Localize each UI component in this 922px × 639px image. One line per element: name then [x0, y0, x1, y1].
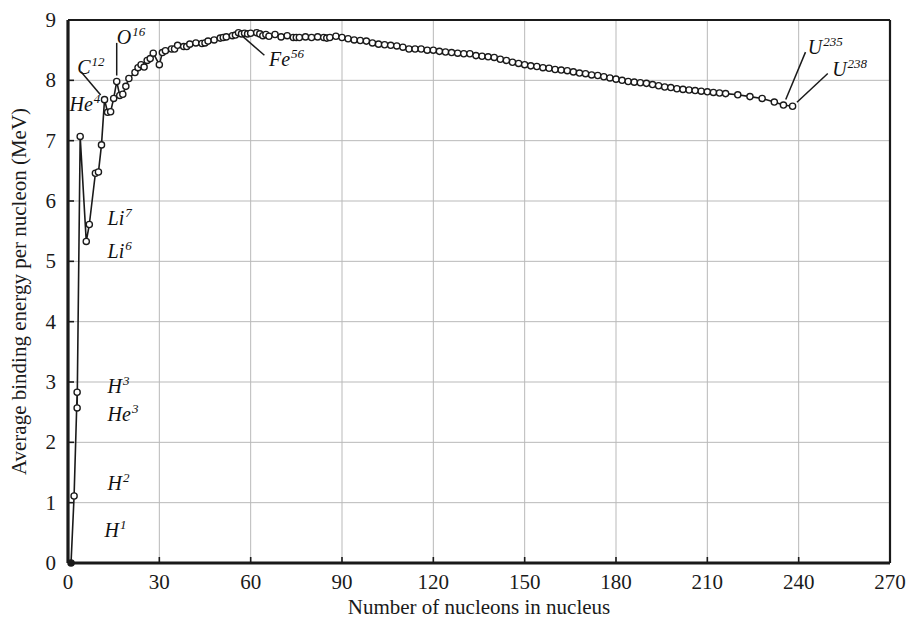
y-tick-label: 2 [46, 430, 57, 454]
data-point-marker [759, 95, 765, 101]
data-point-marker [95, 169, 101, 175]
data-point-marker [662, 84, 668, 90]
annotation-mass-number: 12 [91, 54, 105, 69]
data-point-marker [656, 83, 662, 89]
y-tick-label: 4 [46, 310, 57, 334]
data-point-marker [589, 72, 595, 78]
x-tick-label: 120 [418, 570, 450, 594]
x-tick-label: 30 [149, 570, 170, 594]
data-point-marker [345, 36, 351, 42]
data-point-marker [613, 76, 619, 82]
data-point-marker [333, 33, 339, 39]
data-point-marker [479, 53, 485, 59]
annotation-mass-number: 56 [291, 46, 305, 61]
data-point-marker [418, 46, 424, 52]
data-point-marker [369, 40, 375, 46]
annotation-element-symbol: U [832, 58, 848, 80]
annotation-element-symbol: Li [107, 240, 125, 262]
data-point-marker [278, 34, 284, 40]
data-point-marker [74, 405, 80, 411]
data-point-marker [643, 80, 649, 86]
annotation-element-symbol: H [104, 519, 121, 541]
data-point-marker [582, 71, 588, 77]
x-tick-label: 90 [332, 570, 353, 594]
data-point-marker [467, 51, 473, 57]
data-point-marker [86, 221, 92, 227]
y-tick-label: 5 [46, 249, 57, 273]
data-point-marker [327, 34, 333, 40]
x-axis-title: Number of nucleons in nucleus [348, 595, 610, 619]
data-point-marker [436, 48, 442, 54]
annotation-element-symbol: O [117, 26, 131, 48]
data-point-marker [382, 42, 388, 48]
data-point-marker [515, 60, 521, 66]
annotation-element-symbol: U [808, 36, 824, 58]
data-point-marker [111, 95, 117, 101]
data-point-marker [315, 34, 321, 40]
binding-energy-curve-figure: 0306090120150180210240270 0123456789 H1H… [0, 0, 922, 639]
data-point-marker [771, 99, 777, 105]
data-point-marker [485, 54, 491, 60]
data-point-marker [503, 57, 509, 63]
annotation-mass-number: 235 [823, 34, 843, 49]
data-point-marker [83, 238, 89, 244]
x-tick-label: 240 [783, 570, 815, 594]
annotation-mass-number: 2 [123, 470, 130, 485]
data-point-marker [187, 41, 193, 47]
data-point-marker [491, 54, 497, 60]
annotation-mass-number: 1 [120, 517, 127, 532]
x-tick-label: 210 [692, 570, 724, 594]
data-point-marker [308, 34, 314, 40]
x-tick-label: 180 [600, 570, 632, 594]
data-point-marker [162, 48, 168, 54]
y-tick-label: 8 [46, 68, 57, 92]
data-point-marker [394, 43, 400, 49]
data-point-marker [735, 92, 741, 98]
data-point-marker [552, 66, 558, 72]
annotation-element-symbol: H [107, 375, 124, 397]
annotation-element-symbol: He [69, 93, 93, 115]
chart-canvas: 0306090120150180210240270 0123456789 H1H… [0, 0, 922, 639]
data-point-marker [540, 65, 546, 71]
data-point-marker [710, 89, 716, 95]
annotation-mass-number: 6 [125, 238, 132, 253]
data-point-marker [680, 86, 686, 92]
data-point-marker [686, 87, 692, 93]
annotation-mass-number: 4 [94, 91, 101, 106]
y-tick-label: 6 [46, 189, 57, 213]
data-point-marker [789, 103, 795, 109]
data-point-marker [211, 37, 217, 43]
data-point-marker [619, 77, 625, 83]
data-point-marker [71, 493, 77, 499]
data-point-marker [461, 51, 467, 57]
x-tick-label: 0 [63, 570, 74, 594]
annotation-mass-number: 3 [131, 401, 139, 416]
data-point-marker [363, 38, 369, 44]
data-point-marker [509, 59, 515, 65]
data-point-marker [601, 74, 607, 80]
data-point-marker [357, 37, 363, 43]
data-point-marker [175, 42, 181, 48]
data-point-marker [631, 79, 637, 85]
data-point-marker [704, 89, 710, 95]
data-point-marker [388, 42, 394, 48]
data-point-marker [558, 67, 564, 73]
annotation-mass-number: 238 [848, 56, 868, 71]
annotation-element-symbol: C [77, 56, 91, 78]
data-point-marker [674, 86, 680, 92]
data-point-marker [607, 75, 613, 81]
data-point-marker [248, 30, 254, 36]
data-point-marker [205, 38, 211, 44]
data-point-marker [698, 88, 704, 94]
data-point-marker [455, 50, 461, 56]
annotation-element-symbol: H [107, 472, 124, 494]
data-point-marker [747, 94, 753, 100]
data-point-marker [406, 46, 412, 52]
data-point-marker [637, 80, 643, 86]
y-tick-label: 1 [46, 491, 57, 515]
data-point-marker [780, 102, 786, 108]
chart-background [0, 0, 922, 639]
data-point-marker [284, 33, 290, 39]
data-point-marker [546, 65, 552, 71]
data-point-marker [120, 91, 126, 97]
